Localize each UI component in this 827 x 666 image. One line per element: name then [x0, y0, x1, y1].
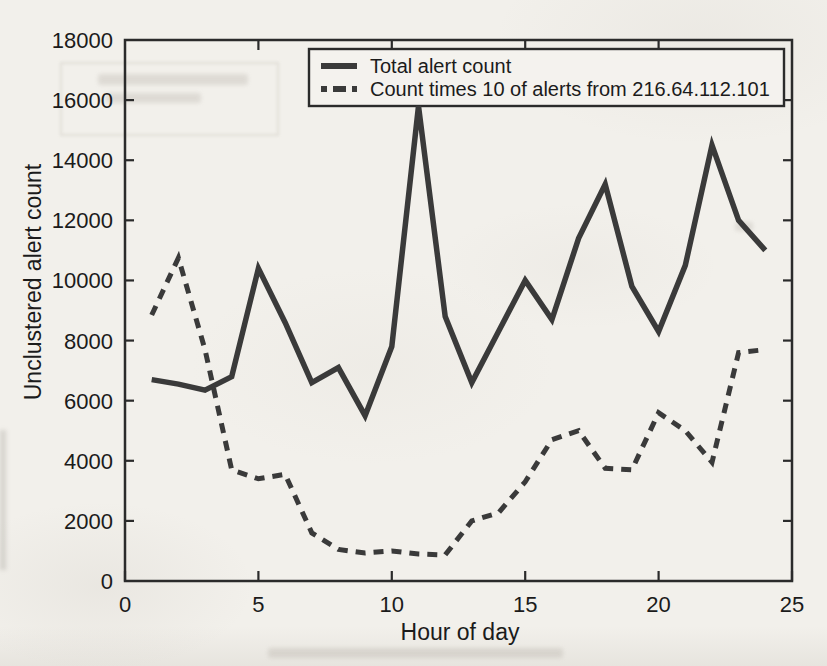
y-tick-label: 2000 [64, 509, 113, 534]
plot-area: 0510152025020004000600080001000012000140… [52, 28, 804, 617]
y-tick-label: 8000 [64, 329, 113, 354]
y-axis-label: Unclustered alert count [20, 163, 46, 400]
series-line-total-alert-count [152, 106, 766, 416]
y-tick-label: 18000 [52, 28, 113, 53]
y-tick-label: 16000 [52, 88, 113, 113]
y-tick-label: 10000 [52, 268, 113, 293]
x-axis-label: Hour of day [401, 619, 520, 645]
y-tick-label: 12000 [52, 208, 113, 233]
x-tick-label: 15 [513, 592, 537, 617]
x-tick-label: 20 [646, 592, 670, 617]
y-tick-label: 0 [101, 569, 113, 594]
axis-box [125, 40, 792, 581]
alert-count-line-chart: 0510152025020004000600080001000012000140… [0, 0, 827, 666]
legend-label-0: Total alert count [370, 55, 512, 77]
y-tick-label: 6000 [64, 389, 113, 414]
x-tick-label: 10 [380, 592, 404, 617]
x-tick-label: 0 [119, 592, 131, 617]
x-tick-label: 5 [252, 592, 264, 617]
y-tick-label: 14000 [52, 148, 113, 173]
x-tick-label: 25 [780, 592, 804, 617]
y-tick-label: 4000 [64, 449, 113, 474]
legend-label-1: Count times 10 of alerts from 216.64.112… [370, 78, 770, 100]
